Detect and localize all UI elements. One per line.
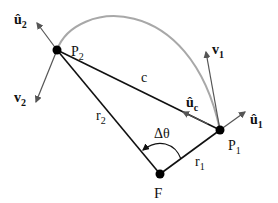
r2-line (57, 50, 160, 174)
label-r1: r1 (195, 154, 205, 172)
uc-vector (183, 112, 208, 124)
delta-theta-arc (143, 143, 181, 159)
label-p1: P1 (228, 138, 241, 156)
point-p2 (53, 46, 62, 55)
label-u2: û2 (14, 12, 27, 30)
label-f: F (154, 185, 162, 201)
label-r2: r2 (96, 108, 106, 126)
v2-vector (36, 50, 57, 102)
label-chord: c (141, 70, 147, 85)
u1-vector (220, 112, 245, 130)
label-v1: v1 (212, 42, 224, 60)
label-u1: û1 (250, 112, 263, 130)
label-delta-theta: Δθ (154, 126, 170, 141)
point-f (156, 170, 165, 179)
label-v2: v2 (14, 90, 26, 108)
point-p1 (216, 126, 225, 135)
u2-vector (37, 23, 57, 50)
label-uc: ûc (186, 95, 199, 113)
lambert-diagram: P2 P1 F c r2 r1 Δθ û2 v2 v1 û1 ûc (0, 0, 278, 203)
